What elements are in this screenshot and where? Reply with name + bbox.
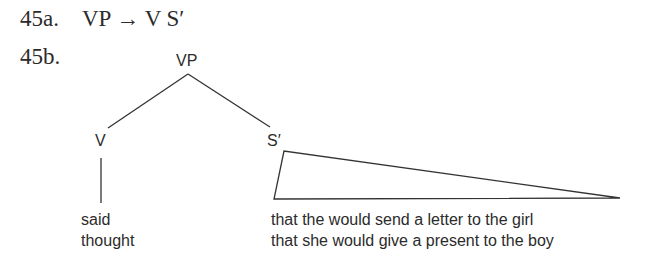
word-said: said	[81, 211, 110, 229]
word-thought: thought	[81, 232, 134, 250]
clause-1: that the would send a letter to the girl	[271, 211, 533, 229]
clause-2: that she would give a present to the boy	[271, 232, 554, 250]
